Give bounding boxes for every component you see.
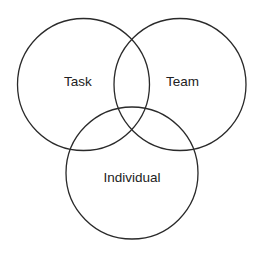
individual-label: Individual (103, 170, 160, 185)
venn-diagram: Task Team Individual (0, 0, 264, 254)
team-label: Team (166, 74, 199, 89)
task-label: Task (64, 74, 92, 89)
